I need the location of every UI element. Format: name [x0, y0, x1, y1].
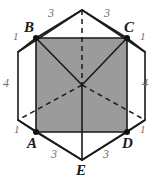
- vertex-label-D: D: [122, 136, 133, 151]
- unit-length-near-A: 1: [14, 124, 20, 135]
- edge-length-left: 4: [3, 77, 9, 89]
- vertex-label-A: A: [27, 136, 37, 151]
- edge-length-bottom-right: 3: [103, 148, 109, 160]
- geometry-figure: B C A D E 3 3 4 4 3 3 1 1 1 1: [0, 0, 158, 181]
- vertex-dot-C: [124, 35, 130, 41]
- edge-top-to-B: [36, 10, 82, 38]
- edge-length-bottom-left: 3: [51, 148, 57, 160]
- unit-length-near-C: 1: [140, 31, 146, 42]
- unit-length-near-B: 1: [13, 31, 19, 42]
- edge-length-top-right: 3: [104, 7, 110, 19]
- vertex-label-B: B: [24, 20, 34, 35]
- vertex-dot-B: [33, 35, 39, 41]
- vertex-label-C: C: [124, 20, 134, 35]
- vertex-label-E: E: [76, 163, 86, 178]
- edge-length-right: 4: [142, 77, 148, 89]
- edge-A-to-E: [36, 132, 82, 160]
- edge-L-to-B: [18, 38, 36, 52]
- unit-length-near-D: 1: [140, 124, 146, 135]
- edge-Lb-to-A: [18, 120, 36, 132]
- edge-length-top-left: 3: [48, 7, 54, 19]
